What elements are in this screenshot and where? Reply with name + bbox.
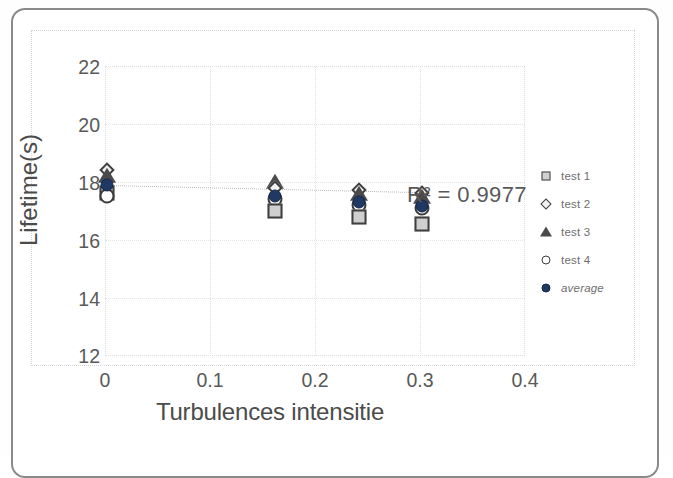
x-tick-0: 0 — [75, 369, 135, 392]
legend-label-test-2: test 2 — [561, 198, 590, 210]
legend-label-test-4: test 4 — [561, 254, 590, 266]
x-tick-04: 0.4 — [495, 369, 555, 392]
x-tick-02: 0.2 — [285, 369, 345, 392]
r-squared-annotation: R² = 0.9977 — [407, 182, 527, 208]
chart-legend: test 1 test 2 test 3 test 4 average — [538, 163, 648, 303]
gridline-x-01 — [210, 66, 211, 356]
legend-item-test-3[interactable]: test 3 — [538, 219, 648, 244]
point-average-2 — [350, 193, 368, 211]
legend-item-average[interactable]: average — [538, 275, 648, 300]
point-average-1 — [266, 187, 284, 205]
legend-label-test-1: test 1 — [561, 170, 590, 182]
square-marker-icon — [538, 168, 554, 184]
plot-area — [105, 66, 525, 356]
legend-item-test-1[interactable]: test 1 — [538, 163, 648, 188]
circle-marker-icon — [538, 252, 554, 268]
triangle-marker-icon — [538, 224, 554, 240]
legend-item-test-2[interactable]: test 2 — [538, 191, 648, 216]
filled-circle-marker-icon — [269, 190, 282, 203]
square-marker-icon — [352, 210, 367, 225]
r-squared-text: R² = 0.9977 — [407, 182, 527, 207]
filled-circle-marker-icon — [353, 196, 366, 209]
x-axis-title: Turbulences intensitie — [0, 398, 540, 426]
diamond-marker-icon — [538, 196, 554, 212]
x-tick-01: 0.1 — [180, 369, 240, 392]
y-axis-title: Lifetime(s) — [15, 65, 43, 315]
point-test1-3 — [413, 215, 431, 233]
gridline-x-02 — [315, 66, 316, 356]
legend-label-test-3: test 3 — [561, 226, 590, 238]
legend-label-average: average — [561, 282, 604, 294]
point-average-0 — [98, 176, 116, 194]
square-marker-icon — [268, 204, 283, 219]
filled-circle-marker-icon — [538, 280, 554, 296]
legend-item-test-4[interactable]: test 4 — [538, 247, 648, 272]
filled-circle-marker-icon — [101, 179, 114, 192]
square-marker-icon — [415, 217, 430, 232]
x-tick-03: 0.3 — [390, 369, 450, 392]
